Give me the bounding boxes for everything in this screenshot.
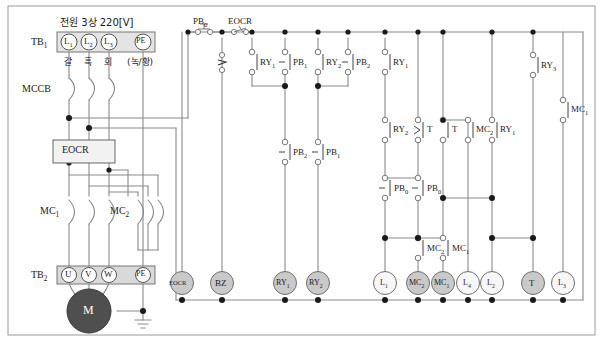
label-ry2-mid: RY2: [393, 124, 408, 136]
label-pb1-mid: PB1: [326, 147, 340, 159]
wire-color-pe: (녹/황): [127, 55, 153, 68]
label-t-mid: T: [427, 124, 433, 134]
load-label-t: T: [529, 278, 535, 288]
contact-eocr-top[interactable]: [231, 26, 248, 35]
wire-color-l2: 흑: [84, 55, 92, 68]
label-ry1-mid: RY1: [500, 124, 515, 136]
label-pb0-lower-2: PB0: [427, 183, 441, 195]
tb1-terminal-l1: L1: [64, 36, 73, 48]
contact-pb1-mid[interactable]: [312, 139, 323, 165]
label-ry3-top: RY3: [541, 60, 556, 72]
contact-flash-buzzer[interactable]: [218, 52, 226, 72]
load-symbols: [171, 272, 575, 295]
label-pb0-lower-1: PB0: [394, 183, 408, 195]
mc1-power-label: MC1: [40, 205, 59, 219]
tb2-terminal-pe: PE: [136, 269, 145, 278]
tb2-terminal-v: V: [85, 269, 92, 279]
load-label-l3: L3: [558, 278, 566, 289]
power-supply-label: 전원 3상 220[V]: [60, 14, 133, 29]
wire-color-l3: 회: [104, 55, 112, 68]
label-pb1-top: PB1: [293, 57, 307, 69]
pb0-top-label: PB0: [193, 16, 207, 28]
contact-ry2-mid[interactable]: [382, 117, 390, 143]
label-mc2-mid: MC2: [476, 124, 493, 136]
contact-ry2-top[interactable]: [315, 49, 323, 75]
contact-pb1-top[interactable]: [279, 49, 290, 75]
label-ry1-top-right: RY1: [393, 57, 408, 69]
load-label-mc2: MC2: [409, 278, 424, 289]
contact-pb2-mid[interactable]: [279, 139, 290, 165]
load-label-ry1: RY1: [276, 278, 290, 289]
schematic-svg: [0, 0, 603, 341]
contact-ry1-top[interactable]: [249, 49, 257, 75]
label-pb2-mid: PB2: [293, 147, 307, 159]
tb1-terminal-l3: L3: [104, 36, 113, 48]
label-mc2-low: MC2: [427, 243, 444, 255]
contact-mc1-right[interactable]: [560, 97, 568, 123]
tb2-label: TB2: [31, 269, 47, 283]
circuit-diagram-canvas: 전원 3상 220[V] TB1 L1 L2 L3 PE 갈 흑 회 (녹/황)…: [0, 0, 603, 341]
load-label-l2: L2: [487, 278, 495, 289]
label-mc1-low: MC1: [452, 243, 469, 255]
contact-pb0-lower-1[interactable]: [379, 175, 390, 201]
mccb-label: MCCB: [22, 83, 51, 94]
eocr-top-label: EOCR: [228, 16, 252, 26]
contact-t-mid[interactable]: [414, 117, 423, 143]
eocr-box-label: EOCR: [62, 144, 89, 155]
contact-mc2-mid[interactable]: [465, 117, 473, 143]
diagram-frame: [8, 6, 595, 335]
contact-pb2-top[interactable]: [342, 49, 353, 75]
load-label-bz: BZ: [215, 278, 227, 288]
tb2-terminal-w: W: [104, 269, 113, 279]
contact-ry3-top[interactable]: [530, 52, 538, 78]
tb1-terminal-pe: PE: [136, 36, 145, 45]
label-ry1-top: RY1: [260, 57, 275, 69]
tb1-terminal-l2: L2: [84, 36, 93, 48]
mc2-power-label: MC2: [110, 205, 129, 219]
wire-color-l1: 갈: [64, 55, 72, 68]
contact-ry1-top-right[interactable]: [382, 49, 390, 75]
label-t-mid-2: T: [452, 124, 458, 134]
tb2-terminal-u: U: [65, 269, 72, 279]
tb1-label: TB1: [31, 36, 47, 50]
label-mc1-right: MC1: [571, 104, 588, 116]
load-label-l4: L4: [463, 278, 471, 289]
load-label-eocr: EOCR: [169, 279, 186, 286]
contact-pb0-lower-2[interactable]: [412, 175, 423, 201]
load-label-l1: L1: [380, 278, 388, 289]
load-label-ry2: RY2: [309, 278, 323, 289]
label-ry2-top: RY2: [326, 57, 341, 69]
label-pb2-top: PB2: [356, 57, 370, 69]
load-label-mc1: MC1: [434, 278, 449, 289]
motor-label: M: [83, 303, 94, 318]
